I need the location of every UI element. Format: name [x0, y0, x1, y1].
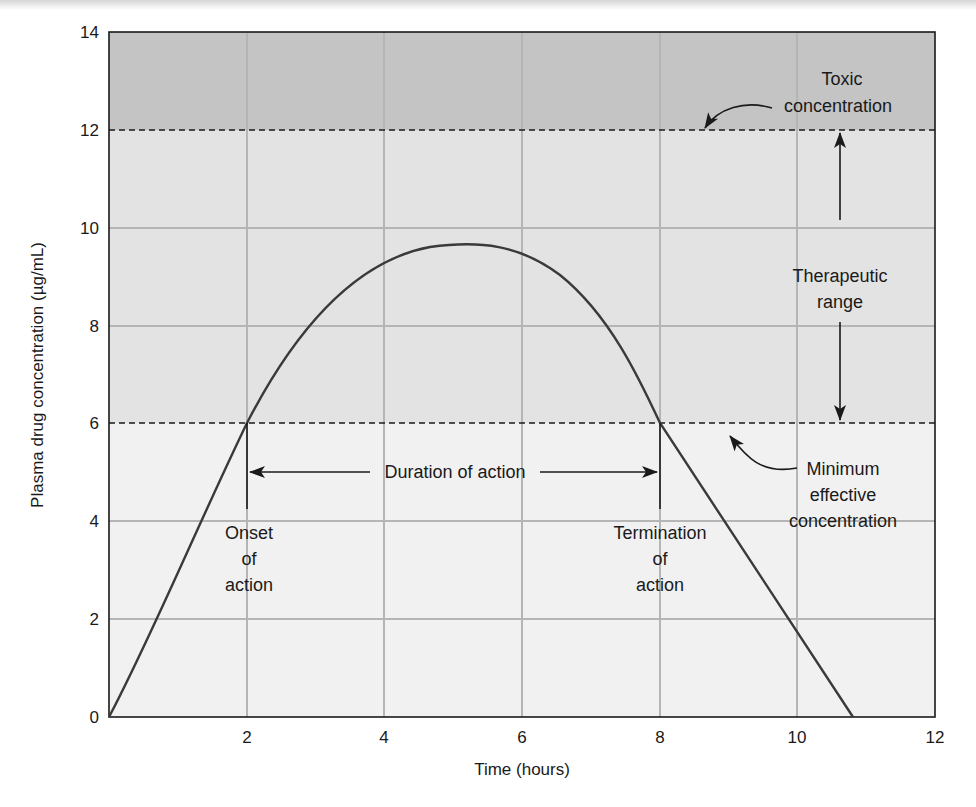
x-axis-title: Time (hours)	[474, 760, 570, 779]
svg-text:Toxic: Toxic	[821, 69, 862, 89]
svg-text:range: range	[817, 292, 863, 312]
x-tick: 12	[926, 728, 945, 747]
svg-text:action: action	[636, 575, 684, 595]
y-tick: 12	[80, 121, 99, 140]
x-tick: 10	[788, 728, 807, 747]
svg-text:of: of	[652, 549, 668, 569]
x-tick: 6	[517, 728, 526, 747]
y-axis-ticks: 0 2 4 6 8 10 12 14	[80, 23, 99, 727]
y-tick: 8	[90, 317, 99, 336]
svg-text:of: of	[241, 549, 257, 569]
y-tick: 14	[80, 23, 99, 42]
x-tick: 8	[655, 728, 664, 747]
pharmacokinetics-chart: 0 2 4 6 8 10 12 14 2 4 6 8 10 12 Time (h…	[0, 0, 976, 807]
svg-text:Termination: Termination	[613, 523, 706, 543]
y-tick: 0	[90, 708, 99, 727]
duration-of-action-label: Duration of action	[384, 462, 525, 482]
y-tick: 2	[90, 610, 99, 629]
y-tick: 6	[90, 414, 99, 433]
svg-text:concentration: concentration	[789, 511, 897, 531]
y-axis-title: Plasma drug concentration (µg/mL)	[28, 242, 47, 508]
svg-text:concentration: concentration	[784, 96, 892, 116]
svg-text:Minimum: Minimum	[806, 459, 879, 479]
y-tick: 10	[80, 219, 99, 238]
x-axis-ticks: 2 4 6 8 10 12	[242, 728, 944, 747]
x-tick: 4	[379, 728, 388, 747]
svg-text:action: action	[225, 575, 273, 595]
svg-text:Therapeutic: Therapeutic	[792, 266, 887, 286]
y-tick: 4	[90, 512, 99, 531]
svg-text:Onset: Onset	[225, 523, 273, 543]
svg-text:effective: effective	[810, 485, 877, 505]
x-tick: 2	[242, 728, 251, 747]
